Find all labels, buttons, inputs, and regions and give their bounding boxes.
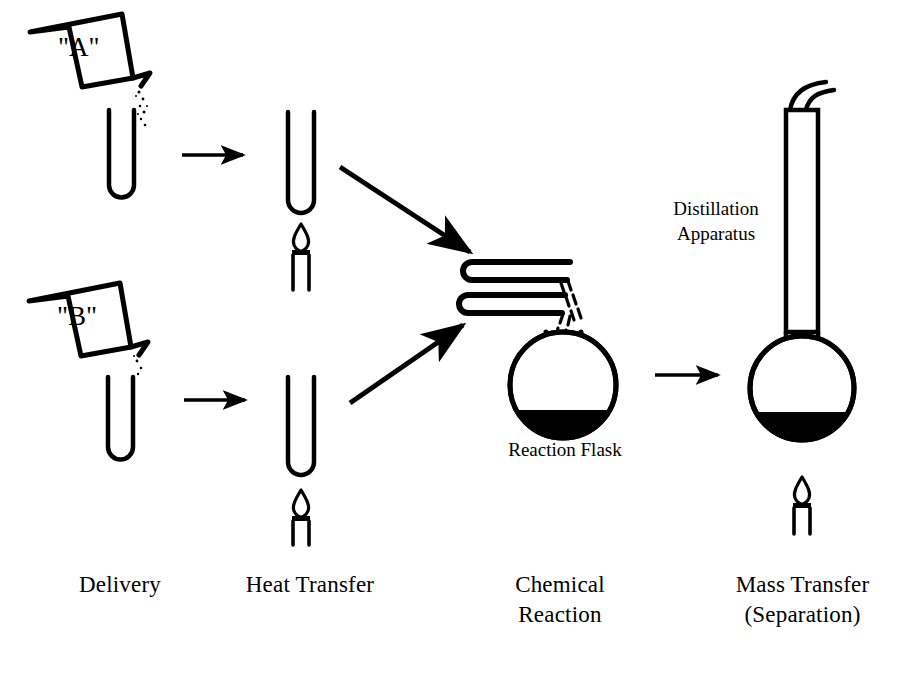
burner-a-collar <box>292 250 310 255</box>
test-tube-b-glass <box>108 377 133 459</box>
stage-label-mass-transfer: Mass Transfer (Separation) <box>705 570 900 630</box>
test-tube-a-heated-glass <box>288 112 314 213</box>
distill-column-body <box>786 110 818 332</box>
test-tube-a-heated <box>288 112 314 213</box>
stage-label-heat-transfer: Heat Transfer <box>205 570 415 600</box>
burner-b-flame <box>293 490 308 517</box>
test-tube-b-heated-glass <box>288 377 314 475</box>
distill-outlet-tube-inner <box>806 90 834 110</box>
distill-flask <box>748 332 858 452</box>
arrow-heat-a-to-react <box>340 167 470 252</box>
distill-column <box>786 82 834 332</box>
burner-a <box>292 224 310 290</box>
stage-label-chemical-reaction: Chemical Reaction <box>470 570 650 630</box>
beaker-b-letter: "B" <box>57 301 97 332</box>
burner-a-flame <box>293 224 308 251</box>
beaker-b-spout <box>131 342 148 355</box>
test-tube-a <box>109 110 134 197</box>
test-tube-a-glass <box>109 110 134 197</box>
round-flask <box>508 332 620 450</box>
distillation-apparatus-label: Distillation Apparatus <box>646 196 786 246</box>
condenser-tube-lower <box>459 295 565 313</box>
test-tube-b <box>108 377 133 459</box>
burner-a-barrel <box>293 255 309 290</box>
burner-c-barrel <box>794 508 810 534</box>
pour-stream-a <box>135 91 148 127</box>
burner-b-collar <box>292 516 310 521</box>
arrow-heat-b-to-react <box>350 325 463 403</box>
condenser-tube-upper <box>463 262 570 280</box>
test-tube-b-heated <box>288 377 314 475</box>
process-diagram-canvas: "A" "B" Reaction Flask Distillation Appa… <box>0 0 904 673</box>
reaction-flask-label: Reaction Flask <box>470 437 660 462</box>
burner-c-collar <box>793 503 811 508</box>
burner-b <box>292 490 310 545</box>
burner-c-flame <box>794 477 809 504</box>
burner-c <box>793 477 811 534</box>
beaker-a-letter: "A" <box>58 32 100 63</box>
stage-label-delivery: Delivery <box>30 570 210 600</box>
burner-b-barrel <box>293 521 309 545</box>
beaker-a-spout <box>133 73 150 86</box>
